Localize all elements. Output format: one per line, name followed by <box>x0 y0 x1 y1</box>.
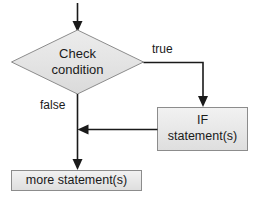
if-statements-label-line2: statement(s) <box>168 129 237 143</box>
node-more-statements[interactable]: more statement(s) <box>12 171 142 191</box>
entry-arrow <box>73 3 83 32</box>
merge-arrow-head <box>78 125 89 135</box>
edge-label-false: false <box>40 98 66 112</box>
node-if-statements[interactable]: IF statement(s) <box>158 108 248 151</box>
check-condition-label-line2: condition <box>51 62 103 77</box>
flowchart-canvas: Check condition true IF statement(s) fal… <box>0 0 256 198</box>
true-arrow-head <box>198 96 208 107</box>
check-condition-label-line1: Check <box>59 46 96 61</box>
edge-true <box>144 63 209 108</box>
edge-false <box>73 94 83 170</box>
false-arrow-head <box>73 159 83 170</box>
edge-merge <box>78 125 158 135</box>
flowchart-diagram: Check condition true IF statement(s) fal… <box>0 0 256 198</box>
node-check-condition[interactable]: Check condition <box>12 30 144 94</box>
if-statements-label-line1: IF <box>197 113 208 127</box>
more-statements-label: more statement(s) <box>26 173 127 187</box>
edge-label-true: true <box>152 42 173 56</box>
